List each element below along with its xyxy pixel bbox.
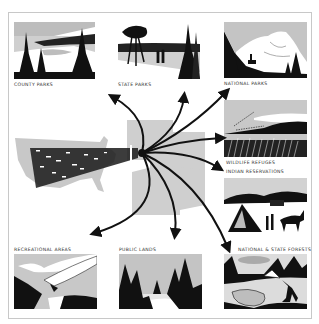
flow-hub xyxy=(138,149,146,157)
traffic-flow-diagram xyxy=(0,0,319,324)
cars-converging-stream xyxy=(30,145,138,188)
